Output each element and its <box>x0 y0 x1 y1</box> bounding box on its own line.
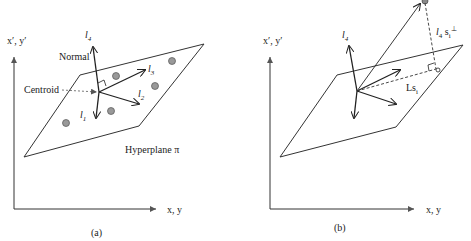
vector-up-right <box>357 70 400 91</box>
label-l2: l2 <box>138 89 144 102</box>
label-l3-sub: 3 <box>151 69 155 77</box>
perp-s-sub: i <box>449 32 451 40</box>
vector-to-point <box>357 4 420 91</box>
projection-label: Lsi <box>406 83 418 96</box>
vector-l2 <box>99 92 139 104</box>
right-angle-mark <box>98 80 106 86</box>
hyperplane <box>280 45 463 157</box>
centroid-label: Centroid <box>24 85 59 95</box>
data-point <box>108 108 115 115</box>
label-l1-sub: 1 <box>83 115 87 123</box>
perpendicular-dashed <box>425 3 436 69</box>
data-point <box>152 83 159 90</box>
projection-point <box>436 68 440 72</box>
hyperplane-label: Hyperplane π <box>125 145 179 155</box>
label-l3: l3 <box>148 64 154 77</box>
label-l2-sub: 2 <box>141 94 145 102</box>
caption-a: (a) <box>91 228 102 238</box>
label-b-l4: l4 <box>342 30 348 43</box>
diagram-canvas <box>0 0 471 241</box>
caption-b: (b) <box>334 223 346 233</box>
x-axis-label-b: x, y <box>426 205 441 215</box>
vector-down <box>354 91 357 118</box>
x-axis-label: x, y <box>167 205 182 215</box>
vector-l4 <box>349 46 357 91</box>
panel-a <box>14 44 204 209</box>
perp-sup: ⊥ <box>451 25 457 33</box>
label-l4-sub: 4 <box>88 35 92 43</box>
right-angle-mark <box>428 63 434 71</box>
normal-label: Normal <box>59 52 90 62</box>
centroid-pointer <box>62 90 97 92</box>
perpendicular-label: l4 si⊥ <box>436 26 457 40</box>
projection-label-sub: i <box>416 88 418 96</box>
hyperplane <box>24 44 204 157</box>
panel-b <box>270 0 463 209</box>
vector-l1 <box>96 92 99 118</box>
label-l4: l4 <box>85 30 91 43</box>
data-point <box>169 58 176 65</box>
vector-down-right <box>357 91 396 104</box>
projection-label-text: Ls <box>406 82 416 93</box>
label-l1: l1 <box>80 110 86 123</box>
data-point <box>63 120 70 127</box>
label-b-l4-sub: 4 <box>345 35 349 43</box>
y-axis-label: x′, y′ <box>7 36 26 46</box>
perp-l-sub: 4 <box>439 32 443 40</box>
vector-l4 <box>93 47 99 92</box>
y-axis-label-b: x′, y′ <box>263 36 282 46</box>
data-point <box>113 73 120 80</box>
